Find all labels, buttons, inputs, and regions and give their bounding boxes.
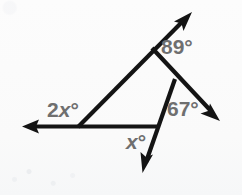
angle-label-2x-variable: x xyxy=(59,98,71,121)
angle-label-2x-degree: ° xyxy=(70,98,78,121)
angle-label-x-variable: x xyxy=(126,130,138,153)
diagram-svg xyxy=(0,0,242,195)
geometry-diagram: 89° 67° 2x° x° xyxy=(0,0,242,195)
angle-label-89: 89° xyxy=(161,36,193,57)
lower-right-arrowhead-icon xyxy=(201,104,221,122)
angle-label-x: x° xyxy=(126,131,146,152)
angle-label-67: 67° xyxy=(167,98,199,119)
angle-label-2x-coefficient: 2 xyxy=(47,98,59,121)
lower-left-ray-line xyxy=(146,79,175,162)
angle-label-2x: 2x° xyxy=(47,99,79,120)
angle-label-x-degree: ° xyxy=(138,130,146,153)
